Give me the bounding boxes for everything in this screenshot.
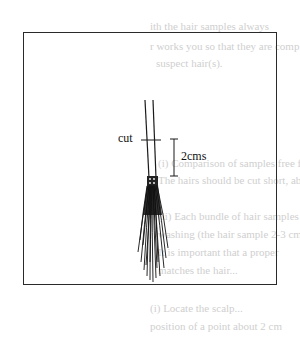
hair-bundle-illustration bbox=[0, 0, 300, 353]
cut-label: cut bbox=[118, 131, 133, 146]
scale-label: 2cms bbox=[181, 149, 206, 164]
